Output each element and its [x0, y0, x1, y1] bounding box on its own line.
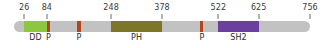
- tick-mark-522: [218, 14, 219, 19]
- position-label-84: 84: [42, 3, 52, 12]
- domain-block-p-2: [77, 21, 80, 32]
- domain-label-p-3: P: [199, 33, 204, 42]
- position-label-248: 248: [103, 3, 119, 12]
- position-label-26: 26: [19, 3, 29, 12]
- domain-block-ph: [111, 21, 162, 32]
- position-label-522: 522: [211, 3, 227, 12]
- domain-label-p-2: P: [77, 33, 82, 42]
- tick-mark-84: [46, 14, 47, 19]
- tick-mark-756: [310, 14, 311, 19]
- position-label-625: 625: [251, 3, 267, 12]
- domain-label-p-1: P: [46, 33, 51, 42]
- protein-domain-diagram: 26 84 248 378 522 625 756 DD P P PH P SH…: [0, 0, 324, 48]
- protein-backbone: [14, 21, 310, 32]
- tick-mark-26: [24, 14, 25, 19]
- domain-label-dd: DD: [29, 33, 42, 42]
- domain-label-ph: PH: [131, 33, 142, 42]
- domain-label-sh2: SH2: [230, 33, 246, 42]
- tick-mark-248: [111, 14, 112, 19]
- domain-block-p-1: [47, 21, 50, 32]
- position-label-756: 756: [302, 3, 318, 12]
- domain-block-sh2: [218, 21, 258, 32]
- tick-mark-378: [162, 14, 163, 19]
- domain-block-p-3: [200, 21, 203, 32]
- position-label-378: 378: [154, 3, 170, 12]
- domain-block-dd: [24, 21, 47, 32]
- tick-mark-625: [258, 14, 259, 19]
